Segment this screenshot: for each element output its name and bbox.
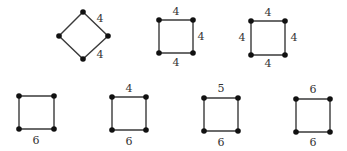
- vertex-dot: [327, 129, 333, 135]
- vertex-dot: [235, 95, 241, 101]
- quadrilateral-square-5: 46: [109, 82, 149, 148]
- vertex-dot: [235, 128, 241, 134]
- vertex-dot: [293, 129, 299, 135]
- quadrilateral-square-6: 56: [201, 82, 241, 149]
- vertex-dot: [248, 18, 254, 24]
- vertex-dot: [282, 52, 288, 58]
- vertex-dot: [105, 33, 111, 39]
- vertex-dot: [248, 52, 254, 58]
- cycle-edges: [251, 21, 285, 55]
- vertex-dot: [156, 17, 162, 23]
- vertex-dot: [327, 96, 333, 102]
- vertex-dot: [109, 94, 115, 100]
- vertex-dot: [156, 50, 162, 56]
- edge-label-bottom: 6: [218, 136, 225, 149]
- vertex-dot: [201, 128, 207, 134]
- cycle-edges: [296, 99, 330, 132]
- vertex-dot: [190, 17, 196, 23]
- vertex-dot: [143, 94, 149, 100]
- edge-label-left: 4: [239, 31, 246, 44]
- cycle-edges: [204, 98, 238, 131]
- edge-label-bottom: 6: [33, 134, 40, 147]
- quadrilateral-square-7: 66: [293, 83, 333, 149]
- edge-label-right: 4: [291, 31, 298, 44]
- edge-label-right: 4: [198, 30, 205, 43]
- vertex-dot: [201, 95, 207, 101]
- quadrilateral-square-3: 4444: [239, 6, 298, 70]
- quadrilateral-square-4: 6: [16, 93, 57, 147]
- vertex-dot: [190, 50, 196, 56]
- vertex-dot: [16, 126, 22, 132]
- vertex-dot: [51, 126, 57, 132]
- cycle-edges: [19, 96, 54, 129]
- vertex-dot: [51, 93, 57, 99]
- edge-label-bottom: 4: [173, 56, 180, 69]
- edge-label-top: 4: [265, 6, 272, 19]
- diagram-canvas: 4444444446465666: [0, 0, 347, 151]
- edge-label-top: 4: [173, 5, 180, 18]
- cycle-edges: [112, 97, 146, 130]
- vertex-dot: [282, 18, 288, 24]
- edge-label-top: 5: [218, 82, 225, 95]
- vertex-dot: [109, 127, 115, 133]
- edge-label-top-right: 4: [97, 12, 104, 25]
- vertex-dot: [143, 127, 149, 133]
- vertex-dot: [56, 33, 62, 39]
- quadrilateral-diamond: 44: [56, 9, 111, 62]
- vertex-dot: [80, 56, 86, 62]
- quadrilateral-square-2: 444: [156, 5, 204, 69]
- edge-label-top: 4: [126, 82, 133, 95]
- edge-label-bottom: 4: [265, 57, 272, 70]
- vertex-dot: [293, 96, 299, 102]
- vertex-dot: [16, 93, 22, 99]
- edge-label-top: 6: [310, 83, 317, 96]
- cycle-edges: [159, 20, 193, 53]
- edge-label-bottom: 6: [126, 135, 133, 148]
- edge-label-bottom: 6: [310, 136, 317, 149]
- edge-label-bottom-right: 4: [97, 48, 104, 61]
- vertex-dot: [80, 9, 86, 15]
